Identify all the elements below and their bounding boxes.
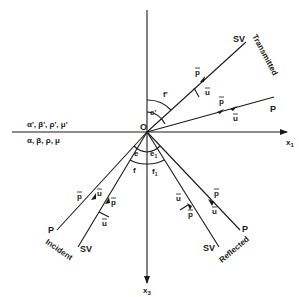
reflected-sv-arrow-icon [187, 203, 192, 210]
incident-label: Incident [44, 237, 75, 262]
incident-p-u-label: u [97, 189, 102, 198]
incident-p-ray [57, 132, 147, 230]
angle-e-prime-label: e' [150, 108, 156, 117]
transmitted-sv-p-arrow-icon [200, 76, 205, 82]
reflected-p-label: P [242, 224, 248, 234]
transmitted-sv-u-vector [194, 88, 199, 97]
angle-f1-label: f1 [152, 167, 158, 177]
reflected-p-ray [147, 132, 240, 230]
reflected-sv-p-label: p [188, 210, 193, 219]
upper-medium-params: α', β', ρ', μ' [27, 120, 68, 129]
transmitted-label: Transmitted [250, 33, 279, 77]
incident-p-p-label: p [77, 192, 82, 201]
reflected-sv-u-label: u [176, 194, 181, 203]
incident-p-label: P [48, 225, 54, 235]
angle-f1-arc [147, 160, 164, 164]
x1-label: x1 [286, 138, 294, 148]
angle-f-arc [130, 160, 147, 164]
incident-sv-p-label: p [111, 198, 116, 207]
x3-label: x3 [143, 286, 151, 296]
origin-label: O [140, 122, 147, 132]
transmitted-sv-p-label: p [195, 68, 200, 77]
reflected-p-u-label: u [212, 207, 217, 216]
diagram-svg: O x1 x3 α', β', ρ', μ' α, β, ρ, μ SV P T… [0, 0, 299, 297]
reflected-label: Reflected [218, 234, 251, 264]
transmitted-p-u-label: u [233, 114, 238, 123]
incident-sv-u-vector [99, 212, 109, 217]
angle-f-prime-label: f' [163, 90, 168, 99]
angle-f-label: f [133, 166, 136, 175]
reflected-sv-label: SV [203, 243, 215, 253]
reflected-sv-u-vector [180, 205, 188, 210]
transmitted-p-label: P [270, 104, 276, 114]
reflected-sv-ray [147, 132, 219, 247]
incident-sv-label: SV [80, 244, 92, 254]
transmitted-p-p-label: p [219, 97, 224, 106]
incident-p-arrow-icon [91, 193, 96, 200]
reflected-p-p-label: p [214, 189, 219, 198]
seismic-ray-diagram: O x1 x3 α', β', ρ', μ' α, β, ρ, μ SV P T… [0, 0, 299, 297]
transmitted-sv-u-label: u [205, 88, 210, 97]
angle-e1-label: e1 [150, 149, 157, 159]
incident-sv-u-label: u [102, 219, 107, 228]
lower-medium-params: α, β, ρ, μ [27, 136, 60, 145]
angle-e-label: e [134, 149, 139, 158]
transmitted-sv-label: SV [233, 34, 245, 44]
